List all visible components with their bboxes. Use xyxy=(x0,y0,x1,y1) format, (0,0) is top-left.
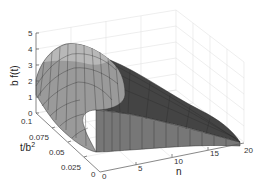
z-axis-label: b f(t) xyxy=(9,65,20,86)
z-tick-3: 3 xyxy=(28,61,33,70)
surface xyxy=(36,44,240,152)
x-tick-0: 0 xyxy=(102,172,107,181)
y-axis-label-main: t/b xyxy=(20,142,32,153)
z-tick-4: 4 xyxy=(28,45,33,54)
y-tick-0: 0 xyxy=(91,170,96,179)
x-axis-label: n xyxy=(176,166,182,177)
z-tick-5: 5 xyxy=(28,29,33,38)
z-tick-2: 2 xyxy=(28,77,33,86)
y-tick-0.05: 0.05 xyxy=(49,148,65,157)
z-tick-labels: 5 4 3 2 1 0 xyxy=(28,29,33,118)
x-tick-20: 20 xyxy=(244,146,253,155)
y-tick-0.1: 0.1 xyxy=(21,117,33,126)
x-tick-5: 5 xyxy=(138,164,143,173)
y-tick-0.025: 0.025 xyxy=(61,163,82,172)
x-tick-10: 10 xyxy=(174,157,183,166)
surface-plot: 5 4 3 2 1 0 0.1 0.075 0.05 0.025 0 0 5 1… xyxy=(0,0,265,187)
x-tick-15: 15 xyxy=(210,149,219,158)
z-tick-1: 1 xyxy=(28,93,33,102)
y-axis-label-sup: 2 xyxy=(31,141,35,148)
y-axis-label: t/b2 xyxy=(20,141,35,153)
